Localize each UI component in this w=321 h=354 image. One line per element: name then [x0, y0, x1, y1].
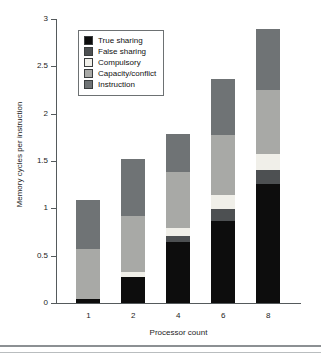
bar-segment[interactable] [166, 242, 190, 303]
bar-segment[interactable] [256, 154, 280, 170]
y-axis-tick-label: 3 [0, 15, 48, 23]
page-rule-primary [0, 345, 321, 347]
legend-item-label: False sharing [98, 47, 146, 56]
x-axis-tick-label: 6 [203, 311, 243, 320]
bar-segment[interactable] [256, 90, 280, 154]
bar-segment[interactable] [166, 236, 190, 243]
legend-item[interactable]: False sharing [84, 46, 156, 57]
y-axis-tick [51, 303, 56, 304]
y-axis-tick-label: 2.5 [0, 62, 48, 70]
legend-swatch-icon [84, 36, 93, 45]
legend-swatch-icon [84, 47, 93, 56]
bar-segment[interactable] [166, 172, 190, 228]
legend-item-label: Instruction [98, 80, 135, 89]
bar-segment[interactable] [76, 299, 100, 303]
legend-swatch-icon [84, 58, 93, 67]
bar-segment[interactable] [166, 134, 190, 173]
bar-segment[interactable] [211, 221, 235, 303]
bar-segment[interactable] [166, 228, 190, 236]
bar-segment[interactable] [211, 135, 235, 196]
y-axis-title: Memory cycles per instruction [15, 75, 24, 235]
bar-segment[interactable] [256, 184, 280, 303]
legend-item[interactable]: True sharing [84, 35, 156, 46]
x-axis-line [56, 303, 301, 304]
legend-item-label: True sharing [98, 36, 143, 45]
y-axis-tick-label: 0 [0, 299, 48, 307]
bar-segment[interactable] [76, 249, 100, 299]
bar-stack[interactable] [76, 200, 100, 303]
x-axis-tick-label: 8 [248, 311, 288, 320]
bar-stack[interactable] [121, 159, 145, 303]
legend-swatch-icon [84, 80, 93, 89]
bar-stack[interactable] [166, 134, 190, 303]
x-axis-tick-label: 4 [158, 311, 198, 320]
y-axis-tick-label: 0.5 [0, 252, 48, 260]
bar-segment[interactable] [256, 29, 280, 90]
bar-segment[interactable] [121, 216, 145, 272]
bar-segment[interactable] [121, 159, 145, 216]
legend-item[interactable]: Compulsory [84, 57, 156, 68]
legend-swatch-icon [84, 69, 93, 78]
y-axis-tick-label: 1 [0, 204, 48, 212]
bar-segment[interactable] [256, 170, 280, 183]
legend-item-label: Compulsory [98, 58, 141, 67]
bar-segment[interactable] [121, 277, 145, 303]
bar-segment[interactable] [211, 79, 235, 135]
legend-item[interactable]: Instruction [84, 79, 156, 90]
x-axis-tick-label: 1 [68, 311, 108, 320]
bar-segment[interactable] [211, 209, 235, 220]
page-rule-secondary [0, 352, 321, 353]
bar-stack[interactable] [211, 79, 235, 303]
bar-stack[interactable] [256, 29, 280, 303]
legend-item-label: Capacity/conflict [98, 69, 156, 78]
y-axis-tick-label: 1.5 [0, 157, 48, 165]
x-axis-tick-label: 2 [113, 311, 153, 320]
chart-figure: 00.511.522.53 12468 Processor count Memo… [0, 0, 321, 354]
bar-segment[interactable] [76, 200, 100, 249]
legend-item[interactable]: Capacity/conflict [84, 68, 156, 79]
chart-legend: True sharingFalse sharingCompulsoryCapac… [78, 30, 164, 96]
y-axis-tick-label: 2 [0, 110, 48, 118]
bar-segment[interactable] [211, 195, 235, 209]
x-axis-title: Processor count [56, 328, 301, 337]
